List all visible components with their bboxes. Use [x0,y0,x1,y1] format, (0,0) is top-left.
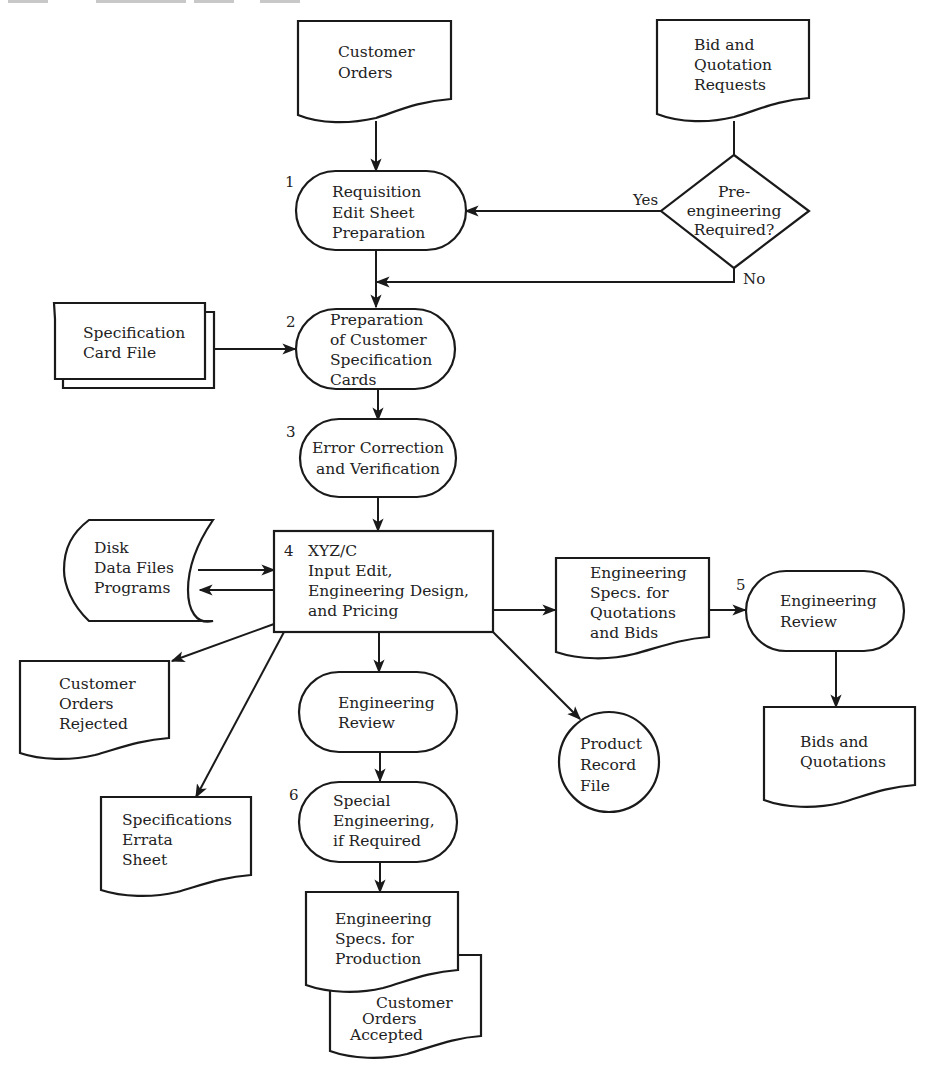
edge-step4-to-errata [196,632,284,797]
step-number: 5 [736,576,746,594]
svg-text:Accepted: Accepted [349,1026,423,1044]
svg-text:Production: Production [335,950,421,968]
node-step6-special-engineering: 6 Special Engineering, if Required [289,782,457,862]
svg-text:and Pricing: and Pricing [308,602,398,620]
yes-label: Yes [632,191,658,209]
node-step5-engineering-review: 5 Engineering Review [736,571,904,651]
svg-text:Data Files: Data Files [94,559,174,577]
svg-text:Card File: Card File [83,344,156,362]
svg-text:Product: Product [580,735,643,753]
svg-text:Quotation: Quotation [694,56,772,74]
step-number: 1 [285,173,295,191]
svg-text:and Bids: and Bids [590,624,658,642]
svg-text:Edit Sheet: Edit Sheet [332,204,415,222]
svg-text:Specification: Specification [83,324,185,342]
svg-text:Quotations: Quotations [590,604,676,622]
svg-text:Review: Review [338,714,396,732]
svg-text:Sheet: Sheet [122,851,168,869]
svg-text:Rejected: Rejected [59,715,128,733]
svg-text:Customer: Customer [338,43,415,61]
svg-text:Bid and: Bid and [694,36,754,54]
svg-text:Special: Special [333,792,391,810]
svg-text:File: File [580,777,610,795]
node-product-record-file: Product Record File [559,712,659,812]
svg-text:Engineering: Engineering [338,694,435,712]
svg-text:Quotations: Quotations [800,753,886,771]
node-customer-orders-rejected: Customer Orders Rejected [20,661,169,759]
svg-text:Review: Review [780,613,838,631]
svg-text:Customer: Customer [59,675,136,693]
svg-text:of Customer: of Customer [330,331,427,349]
svg-text:Record: Record [580,756,636,774]
svg-text:Requisition: Requisition [332,183,421,201]
svg-text:Preparation: Preparation [330,311,423,329]
step-number: 6 [289,786,299,804]
svg-text:Specs. for: Specs. for [335,930,414,948]
node-step1-requisition: 1 Requisition Edit Sheet Preparation [285,171,466,250]
node-bids-and-quotations: Bids and Quotations [764,707,915,807]
svg-text:Specifications: Specifications [122,811,232,829]
node-step2-preparation: 2 Preparation of Customer Specification … [286,309,455,389]
edge-step4-to-rejected [172,624,274,661]
node-step3-error-correction: 3 Error Correction and Verification [286,419,456,497]
svg-text:Orders: Orders [338,64,393,82]
svg-text:Errata: Errata [122,831,173,849]
edge-no-to-step2 [377,268,734,282]
svg-text:Specification: Specification [330,351,432,369]
svg-text:Disk: Disk [94,539,129,557]
svg-text:Preparation: Preparation [332,224,425,242]
svg-text:Programs: Programs [94,579,170,597]
step-number: 3 [286,423,296,441]
svg-text:Engineering: Engineering [780,592,877,610]
svg-text:Specs. for: Specs. for [590,584,669,602]
svg-text:Input Edit,: Input Edit, [308,562,393,580]
svg-text:Engineering,: Engineering, [333,812,435,830]
node-bid-quotation-requests: Bid and Quotation Requests [657,20,809,121]
step-number: 2 [286,313,296,331]
svg-text:Pre-: Pre- [718,183,750,201]
flowchart: Yes No Customer Orders Bid and Quotation… [0,0,935,1069]
svg-text:Bids and: Bids and [800,733,868,751]
svg-text:Required?: Required? [694,221,775,239]
page-header-cropped [8,0,300,3]
svg-text:Requests: Requests [694,76,766,94]
step-number: 4 [284,542,294,560]
node-step4-xyz-c: 4 XYZ/C Input Edit, Engineering Design, … [274,531,493,632]
svg-text:engineering: engineering [687,202,782,220]
svg-text:if Required: if Required [333,832,421,850]
svg-text:Engineering: Engineering [590,564,687,582]
node-eng-specs-quotations: Engineering Specs. for Quotations and Bi… [556,558,709,658]
svg-text:Engineering Design,: Engineering Design, [308,582,469,600]
svg-text:Orders: Orders [59,695,114,713]
node-customer-orders: Customer Orders [298,21,451,122]
node-specification-card-file: Specification Card File [54,303,214,388]
node-disk-data-files: Disk Data Files Programs [64,520,213,622]
node-pre-engineering-decision: Pre- engineering Required? [661,155,809,268]
node-specifications-errata-sheet: Specifications Errata Sheet [101,797,251,896]
svg-text:Engineering: Engineering [335,910,432,928]
svg-text:Error Correction: Error Correction [312,439,444,457]
no-label: No [743,270,765,288]
svg-text:XYZ/C: XYZ/C [308,542,357,560]
node-engineering-review-mid: Engineering Review [299,672,457,752]
svg-text:and Verification: and Verification [316,460,440,478]
svg-text:Cards: Cards [330,371,376,389]
